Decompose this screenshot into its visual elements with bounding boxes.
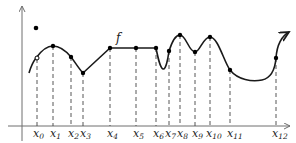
function-curve xyxy=(29,32,289,81)
svg-text:x6: x6 xyxy=(153,127,164,141)
svg-text:x9: x9 xyxy=(192,127,203,141)
svg-text:x11: x11 xyxy=(227,127,243,141)
svg-text:x4: x4 xyxy=(107,127,118,141)
svg-text:x12: x12 xyxy=(272,127,288,141)
svg-text:x8: x8 xyxy=(177,127,188,141)
function-label: f xyxy=(115,31,123,45)
svg-text:x2: x2 xyxy=(68,127,79,141)
svg-text:x5: x5 xyxy=(133,127,144,141)
svg-text:x0: x0 xyxy=(33,127,44,141)
svg-text:x10: x10 xyxy=(206,127,222,141)
x-tick-labels: x0 x1 x2 x3 x4 x5 x6 x7 x8 x9 x10 x11 x1… xyxy=(33,127,288,141)
svg-text:x1: x1 xyxy=(50,127,61,141)
svg-text:x3: x3 xyxy=(80,127,91,141)
svg-text:x7: x7 xyxy=(165,127,176,141)
isolated-point xyxy=(34,26,39,31)
open-point-x0 xyxy=(35,56,39,60)
function-diagram: f x0 x1 x2 x3 x4 x5 x6 x7 x8 x9 x10 x11 … xyxy=(0,0,296,143)
